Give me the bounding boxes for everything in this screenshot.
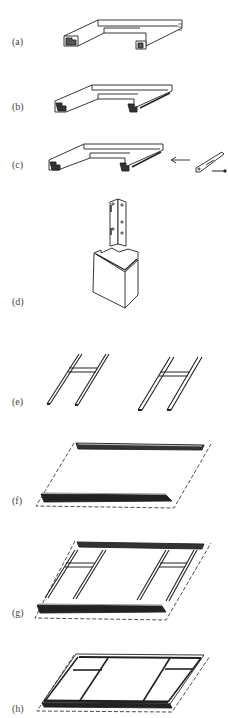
assembly-g	[35, 541, 211, 620]
corner-bracket	[196, 152, 224, 172]
assembly-h	[37, 654, 210, 712]
screw-icon	[212, 170, 226, 172]
frame-a	[64, 20, 182, 49]
arrow-icon	[171, 157, 190, 163]
h-frame-right	[138, 357, 202, 410]
corner-block	[93, 248, 138, 308]
frame-b	[55, 85, 172, 112]
hinge-bracket	[110, 199, 126, 246]
illustration-canvas	[0, 0, 228, 718]
h-frame-left	[47, 354, 109, 405]
rails-f	[36, 443, 211, 508]
frame-c	[49, 144, 163, 171]
